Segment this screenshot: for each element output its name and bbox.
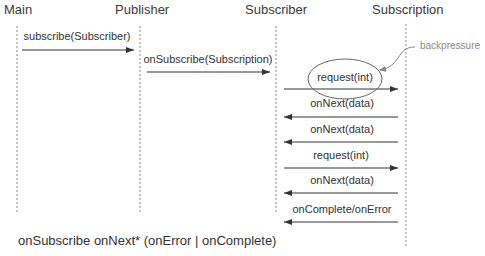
participant-subscriber: Subscriber <box>245 2 307 17</box>
participant-main: Main <box>4 2 32 17</box>
message-label-onnext-1: onNext(data) <box>310 97 374 109</box>
sequence-diagram: Main Publisher Subscriber Subscription s… <box>0 0 485 256</box>
message-label-oncomplete: onComplete/onError <box>292 203 391 215</box>
message-label-onsubscribe: onSubscribe(Subscription) <box>143 53 272 65</box>
backpressure-pointer <box>380 47 415 70</box>
message-label-onnext-3: onNext(data) <box>310 174 374 186</box>
message-label-onnext-2: onNext(data) <box>310 123 374 135</box>
participant-subscription: Subscription <box>372 2 444 17</box>
message-label-subscribe: subscribe(Subscriber) <box>24 30 131 42</box>
protocol-grammar: onSubscribe onNext* (onError | onComplet… <box>18 233 276 248</box>
message-label-request-1: request(int) <box>317 71 373 83</box>
message-label-request-2: request(int) <box>313 149 369 161</box>
backpressure-label: backpressure <box>420 40 480 51</box>
participant-publisher: Publisher <box>115 2 169 17</box>
